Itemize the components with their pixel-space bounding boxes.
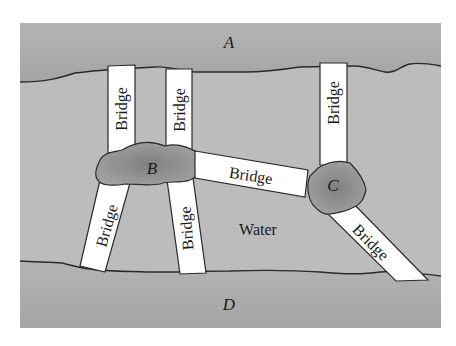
- bridge-1: Bridge: [108, 65, 135, 153]
- label-water: Water: [239, 221, 277, 238]
- label-a: A: [223, 33, 235, 52]
- bridge-3-label: Bridge: [325, 81, 343, 125]
- bridge-3: Bridge: [320, 63, 347, 165]
- konigsberg-bridges-diagram: Bridge Bridge Bridge Bridge Bridge Bridg…: [0, 0, 456, 346]
- bridge-1-label: Bridge: [113, 87, 131, 131]
- label-b: B: [147, 159, 158, 178]
- bridge-2: Bridge: [166, 69, 192, 152]
- label-c: C: [327, 176, 339, 195]
- bridge-2-label: Bridge: [171, 88, 189, 132]
- label-d: D: [222, 295, 236, 314]
